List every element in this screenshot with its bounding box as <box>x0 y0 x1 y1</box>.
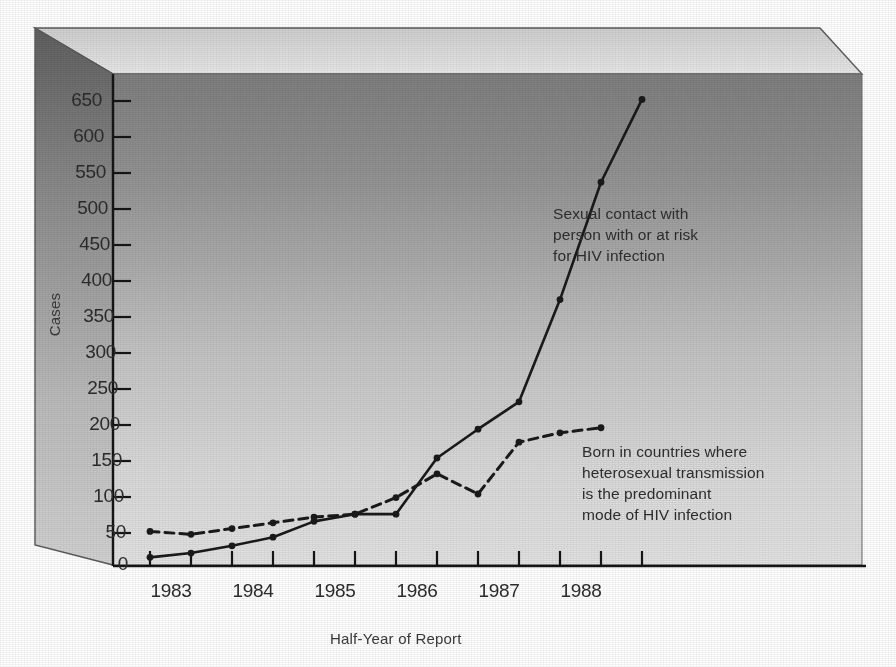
series-data-point <box>434 470 441 477</box>
series-data-point <box>393 494 400 501</box>
annotation-born-in-countries: Born in countries where heterosexual tra… <box>582 441 832 525</box>
series-data-point <box>147 528 154 535</box>
series-data-point <box>188 550 195 557</box>
series-line <box>150 99 642 557</box>
series-data-point <box>557 429 564 436</box>
y-tick-label-450: 450 <box>38 233 110 255</box>
annotation-sexual-contact: Sexual contact with person with or at ri… <box>553 203 793 266</box>
y-tick-label-600: 600 <box>32 125 104 147</box>
series-data-point <box>229 542 236 549</box>
series-data-point <box>352 511 359 518</box>
y-tick-label-100: 100 <box>52 485 124 507</box>
y-tick-label-500: 500 <box>36 197 108 219</box>
y-tick-label-650: 650 <box>30 89 102 111</box>
chart-plot-area <box>0 0 896 667</box>
x-tick-label-1987: 1987 <box>460 580 538 602</box>
series-data-point <box>598 424 605 431</box>
x-tick-label-1983: 1983 <box>132 580 210 602</box>
series-data-point <box>475 426 482 433</box>
series-data-point <box>475 491 482 498</box>
series-data-point <box>229 525 236 532</box>
x-axis-title: Half-Year of Report <box>330 630 462 647</box>
x-tick-label-1986: 1986 <box>378 580 456 602</box>
chart-figure: 650 600 550 500 450 400 350 300 250 200 … <box>0 0 896 667</box>
series-sexual-contact <box>147 96 646 561</box>
series-data-point <box>393 511 400 518</box>
series-data-point <box>147 554 154 561</box>
series-data-point <box>516 398 523 405</box>
series-data-point <box>188 531 195 538</box>
y-axis-title: Cases <box>46 255 63 375</box>
series-born-in-countries <box>147 424 605 537</box>
series-data-point <box>516 439 523 446</box>
x-axis-ticks <box>150 551 642 566</box>
series-data-point <box>270 534 277 541</box>
x-tick-label-1988: 1988 <box>542 580 620 602</box>
y-tick-label-150: 150 <box>50 449 122 471</box>
y-tick-label-50: 50 <box>54 521 126 543</box>
series-data-point <box>311 514 318 521</box>
series-data-point <box>598 179 605 186</box>
y-tick-label-0: 0 <box>56 553 128 575</box>
x-tick-label-1985: 1985 <box>296 580 374 602</box>
series-data-point <box>557 296 564 303</box>
series-data-point <box>270 519 277 526</box>
series-data-point <box>639 96 646 103</box>
series-data-point <box>434 455 441 462</box>
x-tick-label-1984: 1984 <box>214 580 292 602</box>
y-tick-label-250: 250 <box>46 377 118 399</box>
y-tick-label-200: 200 <box>48 413 120 435</box>
chart-series-layer <box>147 96 646 561</box>
series-line <box>150 428 601 535</box>
y-tick-label-550: 550 <box>34 161 106 183</box>
